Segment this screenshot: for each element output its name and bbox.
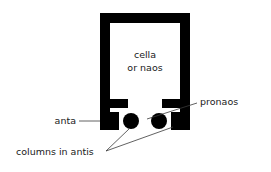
anta-right: [171, 112, 190, 130]
anta-left: [100, 112, 119, 130]
back-wall: [100, 13, 190, 23]
leader-line-columns-right: [106, 127, 173, 151]
cella-front-wall-left: [110, 99, 128, 108]
pronaos-label: pronaos: [200, 96, 238, 107]
columns-in-antis-label: columns in antis: [16, 146, 94, 157]
temple-plan-diagram: cella or naos anta pronaos columns in an…: [0, 0, 271, 172]
anta-label: anta: [55, 115, 76, 126]
cella-label-line2: or naos: [127, 62, 162, 73]
temple-plan-figure: cella or naos anta pronaos columns in an…: [0, 0, 271, 172]
column-in-antis-left: [123, 113, 139, 129]
leader-line-columns-left: [106, 129, 129, 151]
cella-label-line1: cella: [134, 49, 156, 60]
cella-front-wall-right: [162, 99, 180, 108]
